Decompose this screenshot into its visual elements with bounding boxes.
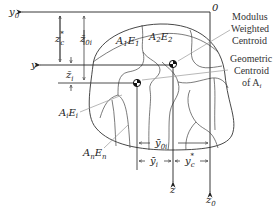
zc-star-label: zc*: [54, 30, 64, 47]
y0-axis-label: y0: [8, 6, 20, 20]
aiei-callout-line: [80, 95, 122, 112]
section-outline: [89, 24, 234, 150]
svg-text:Weighted: Weighted: [231, 23, 269, 34]
centroid-diagram: y0 0 y z z0 zc* z̄0i z̄i ȳ0i ȳi yc* A1E1…: [0, 0, 275, 209]
geometric-centroid-callout-line: [142, 70, 228, 80]
z0-axis-label: z0: [205, 194, 216, 208]
z-axis-label: z: [169, 184, 176, 195]
modulus-weighted-centroid-icon: [169, 60, 176, 67]
geometric-centroid-icon: [133, 79, 140, 86]
svg-text:Geometric: Geometric: [230, 53, 273, 64]
modulus-centroid-callout-line: [178, 30, 230, 61]
z0i-bar-label: z̄0i: [79, 33, 92, 47]
yi-bar-label: ȳi: [149, 155, 158, 169]
region-anen-label: AnEn: [82, 147, 107, 161]
origin-label: 0: [212, 2, 219, 13]
svg-text:Centroid: Centroid: [234, 65, 269, 76]
region-aiei-label: AiEi: [58, 107, 78, 120]
svg-text:Centroid: Centroid: [232, 35, 267, 46]
y-axis-label: y: [30, 59, 37, 70]
modulus-weighted-centroid-callout: Modulus Weighted Centroid: [231, 11, 269, 46]
geometric-centroid-callout: Geometric Centroid of Ai: [230, 53, 273, 90]
zi-bar-label: z̄i: [65, 69, 74, 83]
yc-star-label: yc*: [184, 152, 195, 169]
region-a2e2-label: A2E2: [148, 31, 173, 44]
svg-text:Modulus: Modulus: [232, 11, 268, 22]
y0i-bar-label: ȳ0i: [154, 137, 167, 151]
svg-text:of Ai: of Ai: [242, 77, 262, 90]
